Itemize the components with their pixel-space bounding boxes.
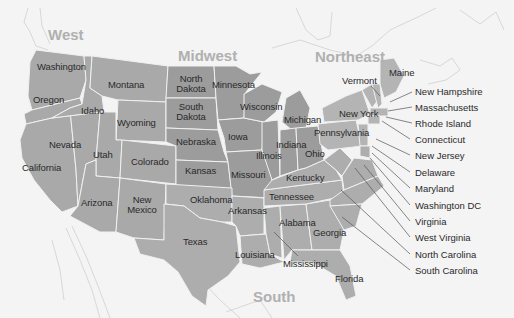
- callout-new-jersey: New Jersey: [415, 151, 465, 161]
- callout-virginia: Virginia: [415, 217, 447, 227]
- callout-delaware: Delaware: [415, 168, 455, 178]
- callout-new-hampshire: New Hampshire: [415, 87, 483, 97]
- callout-maryland: Maryland: [415, 184, 454, 194]
- callout-north-carolina: North Carolina: [415, 250, 476, 260]
- callout-massachusetts: Massachusetts: [415, 103, 478, 113]
- callout-rhode-island: Rhode Island: [415, 119, 471, 129]
- callout-west-virginia: West Virginia: [415, 233, 471, 243]
- callout-washington-dc: Washington DC: [415, 201, 481, 211]
- us-regions-map: West Midwest Northeast South Washington …: [0, 0, 514, 318]
- callout-south-carolina: South Carolina: [415, 266, 478, 276]
- callout-connecticut: Connecticut: [415, 135, 465, 145]
